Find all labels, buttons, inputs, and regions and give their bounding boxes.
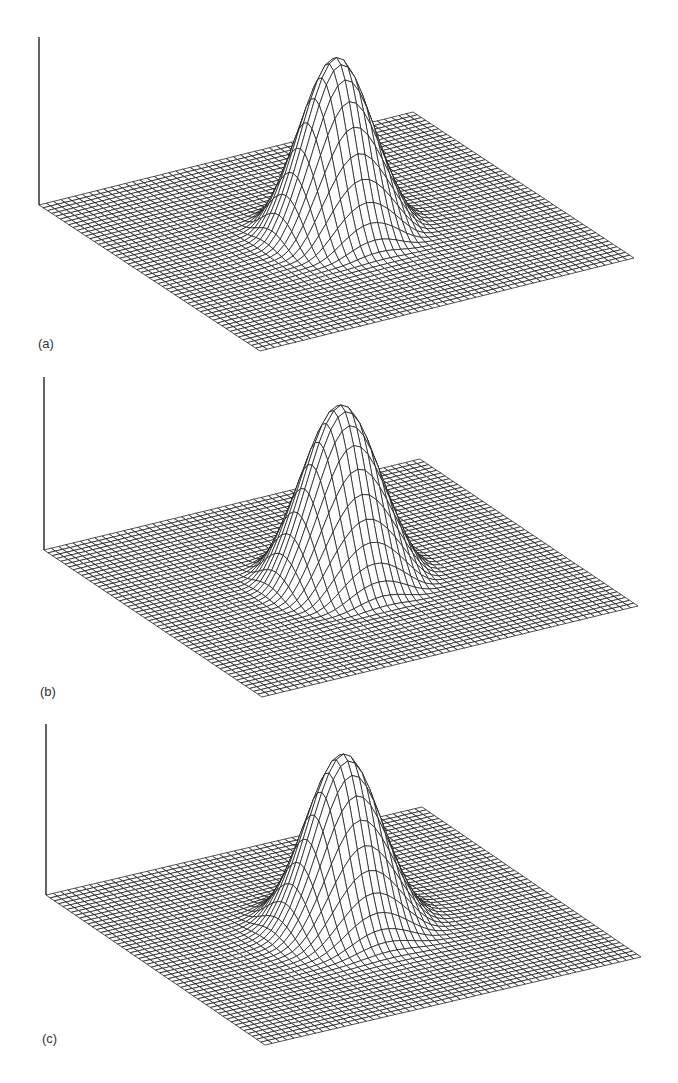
- figure: (a) (b) (c): [0, 0, 678, 1083]
- surface-mesh: [46, 754, 641, 1045]
- panel-label-c: (c): [42, 1031, 57, 1046]
- surface-plot-c: [0, 0, 678, 1083]
